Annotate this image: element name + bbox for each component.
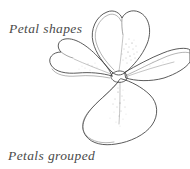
petal-outlines <box>50 11 190 145</box>
petal-top-inner <box>95 14 121 70</box>
petal-right-outer <box>125 48 190 80</box>
petal-top-vein <box>119 36 123 71</box>
petal-bottom-inner <box>83 84 116 143</box>
sketch-page: Petal shapes <box>0 0 190 169</box>
petal-left-notch <box>61 52 73 58</box>
petal-left-outer <box>50 39 112 76</box>
petal-right-inner <box>127 52 190 75</box>
petal-right-vein <box>128 62 174 76</box>
petal-left-vein <box>74 59 111 74</box>
petal-top-notch <box>122 18 123 35</box>
flower-illustration <box>0 0 190 169</box>
caption-petals-grouped: Petals grouped <box>8 148 95 164</box>
stipple-shading <box>79 39 169 127</box>
flower-drawing-svg <box>0 0 190 169</box>
